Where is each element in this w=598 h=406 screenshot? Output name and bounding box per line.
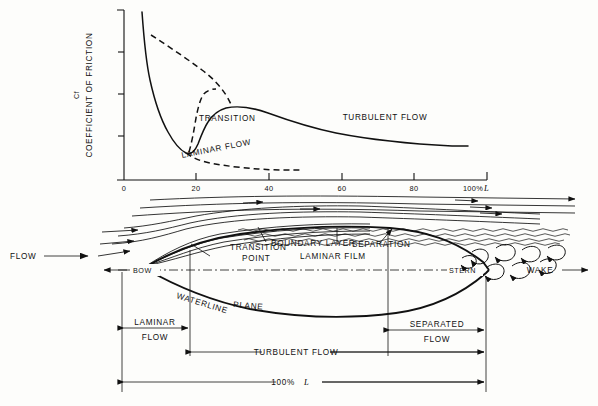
turbulent-flow-dim-label: TURBULENT FLOW	[254, 348, 339, 357]
annotation-turbulent-flow: TURBULENT FLOW	[343, 113, 428, 122]
y-axis-ticks	[118, 52, 124, 136]
series-combined-curve	[142, 12, 468, 154]
x-tick-80: 80	[410, 184, 419, 193]
y-axis	[117, 10, 124, 180]
laminar-flow-dim-line1: LAMINAR	[134, 318, 175, 327]
figure-svg: 0 20 40 60 80 100% L COEFFICIENT OF FRIC…	[0, 0, 598, 406]
x-tick-40: 40	[265, 184, 274, 193]
separated-flow-dim-line2: FLOW	[424, 335, 450, 344]
callout-separation: SEPARATION	[352, 240, 411, 249]
y-axis-title: COEFFICIENT OF FRICTION	[85, 32, 94, 157]
flow-label: FLOW	[10, 252, 36, 261]
callout-laminar-film: LAMINAR FILM	[300, 252, 366, 261]
friction-chart: 0 20 40 60 80 100% L COEFFICIENT OF FRIC…	[72, 10, 489, 193]
x-tick-100: 100%	[463, 184, 483, 193]
overall-length-dim-symbol: L	[303, 377, 309, 387]
figure-root: 0 20 40 60 80 100% L COEFFICIENT OF FRIC…	[0, 0, 598, 406]
callout-boundary-layer: BOUNDARY LAYER	[271, 239, 355, 248]
x-tick-0: 0	[122, 184, 126, 193]
hull-flow-diagram: FLOW BOW STERN WAKE TRANSITION	[10, 196, 588, 317]
hull-lower-profile	[144, 268, 489, 317]
waterline-label-2: PLANE	[233, 300, 264, 312]
x-tick-20: 20	[192, 184, 201, 193]
separated-flow-dim-line1: SEPARATED	[410, 320, 465, 329]
bow-label: BOW	[133, 266, 152, 275]
y-axis-symbol: Cf	[72, 91, 81, 99]
x-axis	[124, 172, 487, 180]
series-turbulent-dashed	[151, 35, 232, 107]
overall-length-dim-label: 100%	[271, 378, 295, 387]
x-axis-length-symbol: L	[483, 183, 489, 193]
x-tick-60: 60	[338, 184, 347, 193]
laminar-flow-dim-line2: FLOW	[142, 333, 168, 342]
callout-transition-point-line2: POINT	[242, 254, 271, 263]
hull-upper-profile	[144, 227, 489, 270]
x-axis-ticks	[196, 173, 414, 180]
annotation-transition: TRANSITION	[199, 114, 256, 123]
